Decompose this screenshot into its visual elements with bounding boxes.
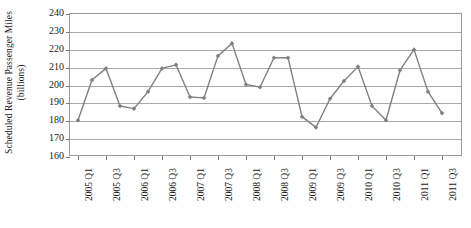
- x-tick-label: 2005 Q3: [111, 168, 123, 228]
- x-tick-label: 2010 Q3: [391, 168, 403, 228]
- x-tick-label: 2008 Q1: [251, 168, 263, 228]
- x-tick-label: 2006 Q3: [167, 168, 179, 228]
- x-tick-label: 2007 Q1: [195, 168, 207, 228]
- x-tick-label: 2007 Q3: [223, 168, 235, 228]
- x-tick-label: 2009 Q3: [335, 168, 347, 228]
- x-tick-label: 2006 Q1: [139, 168, 151, 228]
- x-tick-label: 2011 Q3: [447, 168, 459, 228]
- line-chart: Scheduled Revenue Passenger Miles (billi…: [0, 0, 471, 228]
- x-tick-label: 2009 Q1: [307, 168, 319, 228]
- x-tick-label: 2008 Q3: [279, 168, 291, 228]
- x-axis-tick-labels: 2005 Q12005 Q32006 Q12006 Q32007 Q12007 …: [0, 0, 471, 228]
- x-tick-label: 2011 Q1: [419, 168, 431, 228]
- x-tick-label: 2010 Q1: [363, 168, 375, 228]
- x-tick-label: 2005 Q1: [83, 168, 95, 228]
